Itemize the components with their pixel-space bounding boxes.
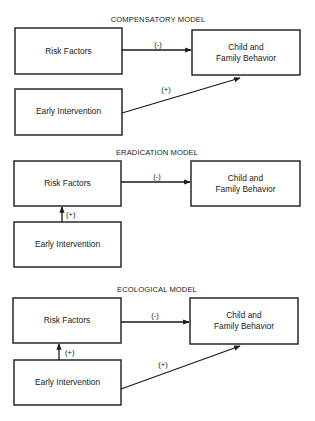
node-label-line1: Child and (228, 42, 264, 52)
edge-label: (+) (158, 360, 168, 369)
edge-intervention-to-child: (+) (122, 78, 240, 113)
edge-risk-to-child: (-) (121, 172, 190, 182)
edge-intervention-to-risk: (+) (59, 344, 75, 360)
node-label-line2: Family Behavior (215, 184, 275, 194)
early-intervention-node: Early Intervention (14, 360, 121, 405)
arrow-diagonal-icon (121, 346, 240, 389)
model-title: COMPENSATORY MODEL (111, 15, 206, 24)
risk-factors-node: Risk Factors (15, 28, 122, 74)
risk-factors-node: Risk Factors (13, 298, 121, 343)
node-label-line2: Family Behavior (216, 53, 276, 63)
compensatory-model: COMPENSATORY MODEL Risk Factors Child an… (15, 15, 300, 135)
eradication-model: ERADICATION MODEL Risk Factors Child and… (14, 148, 300, 267)
edge-label: (+) (66, 210, 76, 219)
edge-risk-to-child: (-) (121, 311, 189, 322)
edge-label: (-) (153, 172, 161, 181)
edge-intervention-to-risk: (+) (62, 207, 76, 222)
model-title: ECOLOGICAL MODEL (117, 285, 197, 294)
edge-intervention-to-child: (+) (121, 346, 240, 389)
edge-label: (+) (161, 85, 171, 94)
edge-risk-to-child: (-) (122, 40, 191, 50)
node-label: Early Intervention (35, 239, 101, 249)
edge-label: (+) (65, 348, 75, 357)
child-family-behavior-node: Child and Family Behavior (191, 161, 300, 206)
edge-label: (-) (151, 311, 159, 320)
intervention-models-diagram: COMPENSATORY MODEL Risk Factors Child an… (0, 0, 315, 421)
node-label: Risk Factors (44, 178, 91, 188)
ecological-model: ECOLOGICAL MODEL Risk Factors Child and … (13, 285, 298, 405)
child-family-behavior-node: Child and Family Behavior (192, 30, 300, 75)
node-label-line1: Child and (226, 310, 262, 320)
early-intervention-node: Early Intervention (15, 89, 122, 135)
node-label-line2: Family Behavior (214, 321, 274, 331)
arrow-diagonal-icon (122, 78, 240, 113)
node-label: Early Intervention (35, 377, 101, 387)
edge-label: (-) (154, 40, 162, 49)
node-label: Early Intervention (36, 106, 102, 116)
node-label-line1: Child and (228, 173, 264, 183)
node-label: Risk Factors (44, 315, 91, 325)
model-title: ERADICATION MODEL (116, 148, 198, 157)
node-label: Risk Factors (45, 46, 92, 56)
child-family-behavior-node: Child and Family Behavior (190, 298, 298, 344)
early-intervention-node: Early Intervention (14, 222, 121, 267)
risk-factors-node: Risk Factors (14, 161, 121, 206)
